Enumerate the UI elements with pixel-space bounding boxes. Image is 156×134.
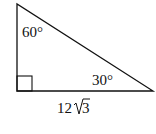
side-radicand: 3 [82, 100, 90, 116]
angle-label-top: 60° [22, 24, 43, 40]
triangle-diagram: 60° 30° 12 3 [0, 0, 156, 134]
triangle [17, 4, 153, 91]
angle-label-bottom-right: 30° [92, 72, 113, 88]
right-angle-marker [17, 76, 32, 91]
side-label-bottom: 12 3 [57, 99, 90, 116]
side-coefficient: 12 [57, 100, 72, 116]
